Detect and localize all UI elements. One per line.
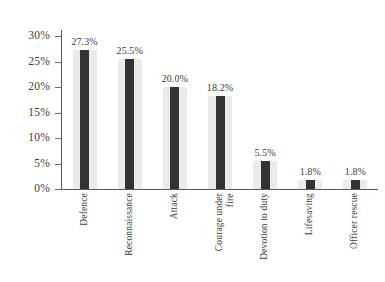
y-axis-tick-label: 25% bbox=[4, 56, 50, 68]
y-axis-tick bbox=[55, 164, 62, 165]
y-axis-tick bbox=[55, 138, 62, 139]
bar-group[interactable]: 20.0% bbox=[163, 87, 187, 189]
bar-value-label: 25.5% bbox=[117, 46, 143, 56]
bar-halo bbox=[163, 87, 187, 189]
x-axis-tick-label: Reconnaissance bbox=[124, 193, 135, 256]
bar-chart: 0%5%10%15%20%25%30% 27.3%25.5%20.0%18.2%… bbox=[0, 0, 385, 282]
x-axis-tick-label: Devotion to duty bbox=[259, 193, 270, 260]
bar[interactable] bbox=[80, 50, 89, 189]
bar-group[interactable]: 25.5% bbox=[118, 59, 142, 189]
y-axis-tick bbox=[55, 36, 62, 37]
bar-group[interactable]: 1.8% bbox=[343, 180, 367, 189]
bar-halo bbox=[253, 161, 277, 189]
y-axis-tick bbox=[55, 62, 62, 63]
x-axis-tick-label: Defence bbox=[79, 193, 90, 226]
bar[interactable] bbox=[216, 96, 225, 189]
bar-value-label: 5.5% bbox=[255, 148, 276, 158]
x-axis-tick-label: Officer rescue bbox=[349, 193, 360, 249]
bar[interactable] bbox=[351, 180, 360, 189]
bar-value-label: 20.0% bbox=[162, 74, 188, 84]
bar-halo bbox=[343, 180, 367, 189]
bar-value-label: 1.8% bbox=[345, 167, 366, 177]
bar-halo bbox=[118, 59, 142, 189]
bar-group[interactable]: 1.8% bbox=[298, 180, 322, 189]
bar-value-label: 27.3% bbox=[71, 37, 97, 47]
x-axis-line bbox=[56, 189, 378, 190]
y-axis-tick-label: 10% bbox=[4, 132, 50, 144]
bar-value-label: 1.8% bbox=[300, 167, 321, 177]
bar-halo bbox=[73, 50, 97, 189]
y-axis-tick-label: 15% bbox=[4, 107, 50, 119]
bar-halo bbox=[298, 180, 322, 189]
bar[interactable] bbox=[125, 59, 134, 189]
x-axis-tick-label: Courage under fire bbox=[214, 193, 235, 251]
bar[interactable] bbox=[261, 161, 270, 189]
plot-area: 27.3%25.5%20.0%18.2%5.5%1.8%1.8% bbox=[62, 36, 378, 189]
y-axis-tick bbox=[55, 87, 62, 88]
x-axis-tick-label: Lifesaving bbox=[304, 193, 315, 235]
bar-group[interactable]: 27.3% bbox=[73, 50, 97, 189]
y-axis-tick-label: 30% bbox=[4, 30, 50, 42]
y-axis-tick bbox=[55, 113, 62, 114]
bar[interactable] bbox=[170, 87, 179, 189]
bar-halo bbox=[208, 96, 232, 189]
y-axis-tick-label: 5% bbox=[4, 158, 50, 170]
y-axis-tick-label: 0% bbox=[4, 183, 50, 195]
bar-value-label: 18.2% bbox=[207, 83, 233, 93]
y-axis-tick bbox=[55, 189, 62, 190]
bar[interactable] bbox=[306, 180, 315, 189]
y-axis-tick-label: 20% bbox=[4, 81, 50, 93]
x-axis-tick-label: Attack bbox=[169, 193, 180, 219]
bar-group[interactable]: 5.5% bbox=[253, 161, 277, 189]
bar-group[interactable]: 18.2% bbox=[208, 96, 232, 189]
